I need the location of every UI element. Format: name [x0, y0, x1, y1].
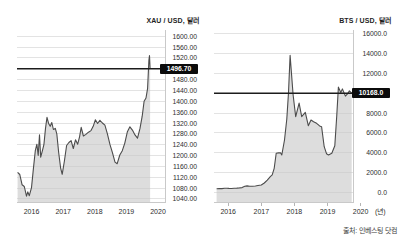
y-tick-label: 14000.0: [362, 49, 387, 58]
bts-usd-chart: [214, 30, 361, 206]
x-tick-label: 2016: [19, 207, 45, 216]
x-tick-label: 2016: [215, 207, 241, 216]
y-tick-label: 1120.00: [173, 173, 197, 182]
x-tick-label: 2017: [50, 207, 76, 216]
x-tick-label: 2020: [348, 207, 374, 216]
source-note: 출처: 인베스팅 닷컴: [343, 225, 397, 235]
y-tick-label: 1280.00: [172, 129, 197, 138]
x-axis-unit-label: (년): [375, 207, 386, 216]
y-tick-label: 1520.00: [172, 53, 197, 62]
y-tick-label: 1080.00: [172, 184, 197, 193]
y-tick-label: 1320.00: [172, 119, 197, 128]
y-tick-label: 16000.0: [362, 29, 387, 38]
y-tick-label: 12000.0: [362, 69, 387, 78]
y-tick-label: 6000.0: [366, 128, 387, 137]
x-tick-label: 2019: [315, 207, 341, 216]
x-tick-label: 2017: [248, 207, 274, 216]
y-tick-label: 1480.00: [172, 75, 197, 84]
xau-usd-chart: [17, 30, 166, 203]
y-tick-label: 4000.0: [366, 148, 387, 157]
y-tick-label: 1400.00: [172, 97, 197, 106]
xau-usd-chart-title: XAU / USD, 달러: [146, 15, 199, 25]
y-tick-label: 1560.00: [172, 43, 197, 52]
y-tick-label: 2000.0: [366, 168, 387, 177]
y-tick-label: 1440.00: [172, 86, 197, 95]
bts-usd-chart-title: BTS / USD, 달러: [339, 15, 391, 25]
y-tick-label: 1160.00: [173, 162, 197, 171]
y-tick-label: 1600.00: [172, 32, 197, 41]
y-tick-label: 1240.00: [172, 140, 197, 149]
x-tick-label: 2018: [281, 207, 307, 216]
y-tick-label: 8000.0: [366, 109, 387, 118]
y-tick-label: 1200.00: [172, 151, 197, 160]
y-tick-label: 1040.00: [172, 194, 197, 203]
price-charts-panel: XAU / USD, 달러 BTS / USD, 달러 1600.001560.…: [0, 0, 401, 246]
x-tick-label: 2020: [145, 207, 171, 216]
area-series: [18, 56, 151, 203]
y-tick-label: 0.0: [378, 188, 387, 197]
area-series: [217, 55, 352, 202]
x-tick-label: 2018: [82, 207, 108, 216]
x-tick-label: 2019: [113, 207, 139, 216]
y-tick-label: 1360.00: [172, 108, 197, 117]
xau-current-value-badge: 1496.70: [160, 64, 198, 74]
bts-current-value-badge: 10168.0: [352, 88, 390, 98]
